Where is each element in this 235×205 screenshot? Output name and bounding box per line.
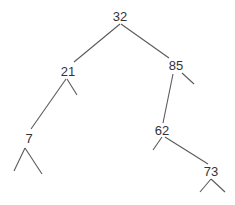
node-32: 32: [113, 10, 127, 23]
edge-n73-null-left: [200, 179, 211, 192]
edge-n32-n21: [74, 24, 120, 62]
node-73: 73: [204, 165, 218, 178]
edge-n21-null-right: [67, 79, 77, 95]
edge-n62-null-left: [153, 137, 162, 150]
node-85: 85: [169, 59, 183, 72]
edge-n62-n73: [165, 137, 208, 164]
edge-n85-null-right: [182, 73, 194, 84]
node-62: 62: [155, 124, 169, 137]
node-21: 21: [61, 65, 75, 78]
edge-n32-n85: [121, 24, 169, 58]
edge-n73-null-right: [211, 179, 225, 192]
tree-diagram: [0, 0, 235, 205]
edge-n21-n7: [31, 79, 66, 129]
edge-n7-null-right: [25, 148, 42, 174]
edge-n85-n62: [163, 74, 173, 123]
edge-n7-null-left: [14, 148, 25, 171]
node-7: 7: [25, 132, 32, 145]
